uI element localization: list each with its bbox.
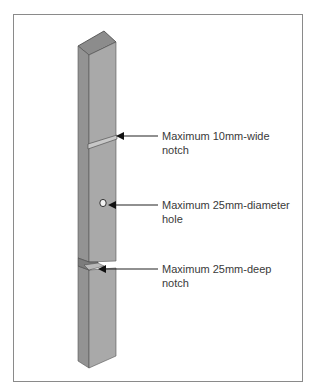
post-front-face-lower — [89, 268, 116, 368]
label-line: Maximum 25mm-diameter — [162, 198, 290, 212]
label-line: notch — [162, 276, 271, 290]
arrow-notch-wide — [116, 132, 158, 140]
label-line: hole — [162, 212, 290, 226]
post-side-face-upper — [78, 46, 89, 262]
post-illustration — [0, 0, 315, 391]
label-notch-wide: Maximum 10mm-wide notch — [162, 129, 270, 157]
hole-icon — [100, 199, 106, 206]
label-notch-deep: Maximum 25mm-deep notch — [162, 262, 271, 290]
arrow-hole — [108, 201, 158, 209]
post-side-face-lower — [78, 266, 89, 368]
post-front-face-upper — [89, 42, 116, 262]
label-line: notch — [162, 143, 270, 157]
label-line: Maximum 25mm-deep — [162, 262, 271, 276]
label-line: Maximum 10mm-wide — [162, 129, 270, 143]
label-hole: Maximum 25mm-diameter hole — [162, 198, 290, 226]
